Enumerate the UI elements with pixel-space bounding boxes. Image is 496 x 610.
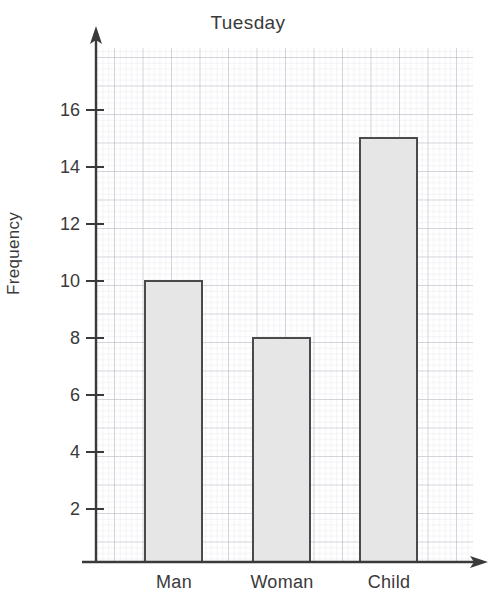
plot-area xyxy=(0,0,496,610)
x-category-label-man: Man xyxy=(133,572,215,593)
bar-woman[interactable] xyxy=(253,338,310,562)
bar-man[interactable] xyxy=(145,281,202,562)
x-category-label-child: Child xyxy=(348,572,430,593)
bar-child[interactable] xyxy=(360,138,417,562)
x-category-label-woman: Woman xyxy=(236,572,328,593)
bar-chart: Tuesday Frequency 16 14 12 10 8 6 4 2 xyxy=(0,0,496,610)
